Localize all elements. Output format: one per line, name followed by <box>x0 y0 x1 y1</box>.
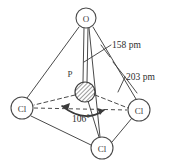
edge-cl-right-bottom <box>112 118 132 142</box>
bond-p-o-line-2 <box>87 28 88 82</box>
callout-158-pm: 158 pm <box>112 40 141 50</box>
phosphorus-sphere <box>75 82 95 102</box>
molecular-structure-figure: P O Cl Cl Cl 158 pm 203 pm 106° <box>0 0 174 165</box>
chlorine-left-label: Cl <box>18 104 27 114</box>
phosphorus-label: P <box>67 69 72 79</box>
edge-o-cl-right <box>93 27 136 99</box>
callout-203-pm: 203 pm <box>126 72 155 82</box>
bond-p-cl-right <box>95 95 128 108</box>
chlorine-right-label: Cl <box>135 106 144 116</box>
tetrahedron-hidden-edges <box>34 108 127 110</box>
bond-angle-label: 106° <box>72 114 90 124</box>
phosphorus-atom <box>75 82 95 102</box>
oxygen-label: O <box>83 14 90 24</box>
structure-diagram: P O Cl Cl Cl 158 pm 203 pm 106° <box>0 0 174 165</box>
bond-p-o-line-1 <box>83 28 84 82</box>
leader-line-203 <box>113 62 125 77</box>
edge-o-cl-left <box>27 27 79 98</box>
leader-tick-203-a <box>118 77 125 92</box>
edge-cl-left-right-dashed <box>34 108 127 110</box>
chlorine-bottom-label: Cl <box>98 144 107 154</box>
